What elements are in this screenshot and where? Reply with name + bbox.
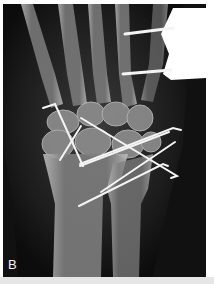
bottom-border-strip	[0, 277, 214, 284]
xray-illustration	[3, 4, 206, 277]
forearm-bones	[43, 154, 153, 277]
xray-image	[3, 4, 206, 277]
panel-label: B	[8, 258, 17, 271]
